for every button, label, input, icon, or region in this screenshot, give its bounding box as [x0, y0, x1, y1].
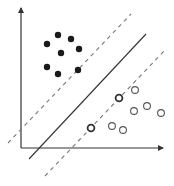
support-vector-point — [116, 95, 123, 102]
filled-point — [44, 41, 50, 47]
open-point — [144, 103, 151, 110]
open-point — [158, 110, 165, 117]
filled-point — [68, 36, 74, 42]
hyperplane-line — [29, 34, 146, 159]
filled-point — [44, 64, 50, 70]
filled-point — [75, 67, 81, 73]
open-point — [132, 87, 139, 94]
lower-margin-line — [45, 49, 166, 176]
class-a-points — [44, 32, 82, 77]
svm-diagram — [0, 0, 174, 186]
open-point — [131, 108, 138, 115]
filled-point — [55, 32, 61, 38]
open-point — [120, 127, 127, 134]
separating-hyperplane — [29, 34, 146, 159]
filled-point — [76, 46, 82, 52]
filled-point — [58, 50, 64, 56]
support-vector-point — [88, 125, 95, 132]
class-b-points — [88, 87, 165, 134]
filled-point — [55, 71, 61, 77]
open-point — [109, 123, 116, 130]
